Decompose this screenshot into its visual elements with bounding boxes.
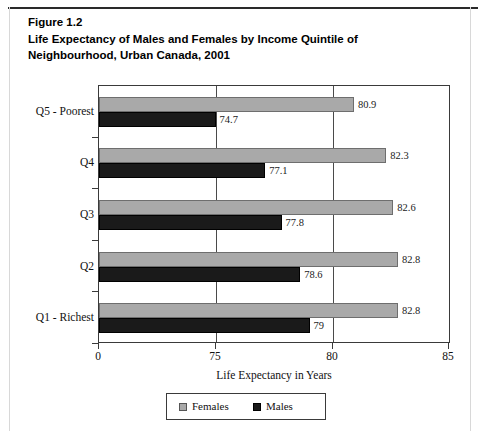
bar-male-q4	[99, 163, 265, 178]
figure-title: Figure 1.2 Life Expectancy of Males and …	[28, 14, 448, 64]
x-axis-tick-label-80: 80	[326, 350, 338, 362]
chart-legend: Females Males	[166, 393, 326, 420]
bar-female-q5-poorest	[99, 97, 354, 112]
bar-female-q3	[99, 200, 393, 215]
bar-value-label: 77.8	[286, 215, 304, 230]
x-axis-tick-label-0: 0	[95, 350, 101, 362]
bar-male-q2	[99, 267, 300, 282]
x-axis-tick-0	[98, 343, 99, 349]
category-label-q3: Q3	[2, 208, 94, 220]
figure-title-line-2: Life Expectancy of Males and Females by …	[28, 31, 448, 48]
bar-male-q3	[99, 215, 282, 230]
y-axis-tick	[92, 188, 98, 189]
bar-value-label: 82.8	[402, 303, 420, 318]
bar-value-label: 82.8	[402, 252, 420, 267]
y-axis-tick	[92, 137, 98, 138]
category-label-q4: Q4	[2, 156, 94, 168]
legend-item-females: Females	[179, 399, 229, 414]
bar-female-q4	[99, 148, 386, 163]
x-axis-tick-80	[332, 343, 333, 349]
y-axis-tick	[92, 240, 98, 241]
x-axis-tick-label-85: 85	[442, 350, 454, 362]
bar-value-label: 74.7	[220, 112, 238, 127]
bar-value-label: 80.9	[358, 97, 376, 112]
x-axis-tick-label-75: 75	[209, 350, 221, 362]
page-top-rule	[8, 7, 478, 9]
legend-label-males: Males	[266, 399, 293, 414]
bar-value-label: 77.1	[269, 163, 287, 178]
bar-value-label: 78.6	[304, 267, 322, 282]
bar-male-q5-poorest	[99, 112, 216, 127]
category-label-q1-richest: Q1 - Richest	[2, 311, 94, 323]
bar-female-q2	[99, 252, 398, 267]
figure-title-line-1: Figure 1.2	[28, 14, 448, 31]
category-label-q5-poorest: Q5 - Poorest	[2, 105, 94, 117]
x-axis-tick-85	[448, 343, 449, 349]
bar-value-label: 79	[314, 318, 325, 333]
page-right-rule	[470, 7, 471, 431]
x-axis-tick-75	[215, 343, 216, 349]
y-axis-tick	[92, 291, 98, 292]
figure-page: Figure 1.2 Life Expectancy of Males and …	[0, 0, 485, 438]
x-axis-title: Life Expectancy in Years	[98, 369, 450, 381]
bar-female-q1-richest	[99, 303, 398, 318]
bar-value-label: 82.6	[397, 200, 415, 215]
plot-area: 80.974.782.377.182.677.882.878.682.879	[98, 85, 450, 343]
bar-male-q1-richest	[99, 318, 310, 333]
legend-swatch-males-icon	[253, 403, 261, 411]
category-label-q2: Q2	[2, 260, 94, 272]
legend-swatch-females-icon	[179, 403, 187, 411]
category-axis-labels: Q5 - PoorestQ4Q3Q2Q1 - Richest	[0, 85, 94, 343]
legend-label-females: Females	[192, 399, 229, 414]
figure-title-line-3: Neighbourhood, Urban Canada, 2001	[28, 47, 448, 64]
legend-item-males: Males	[253, 399, 293, 414]
bar-value-label: 82.3	[390, 148, 408, 163]
